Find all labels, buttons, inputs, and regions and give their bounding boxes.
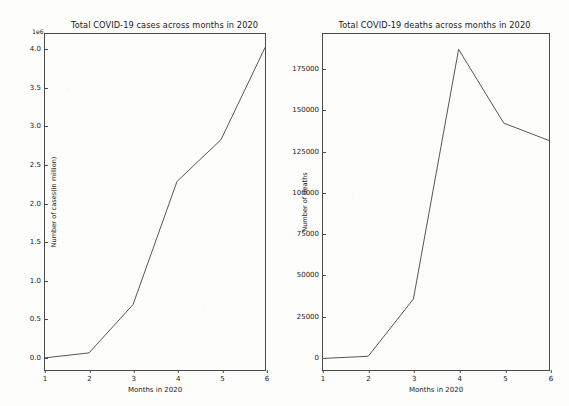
x-tick-cases-3: 3 [132, 370, 136, 383]
y-tick-cases-3: 1.5 [30, 238, 45, 246]
y-tick-deaths-1: 25000 [297, 313, 323, 321]
y-tick-cases-7: 3.5 [30, 84, 45, 92]
series-deaths [323, 34, 549, 370]
x-tick-cases-5: 5 [220, 370, 224, 383]
chart-title-deaths: Total COVID-19 deaths across months in 2… [284, 20, 569, 30]
chart-panel-cases: Total COVID-19 cases across months in 20… [0, 0, 285, 406]
x-tick-cases-4: 4 [176, 370, 180, 383]
x-tick-deaths-6: 6 [549, 370, 553, 383]
x-tick-deaths-1: 1 [321, 370, 325, 383]
x-axis-label-deaths: Months in 2020 [323, 386, 549, 394]
y-tick-cases-2: 1.0 [30, 277, 45, 285]
line-total-cases [45, 48, 265, 358]
y-tick-deaths-0: 0 [315, 354, 323, 362]
x-tick-cases-6: 6 [265, 370, 269, 383]
x-tick-deaths-3: 3 [412, 370, 416, 383]
y-tick-cases-8: 4.0 [30, 45, 45, 53]
y-axis-label-deaths: Number of deaths [301, 172, 309, 232]
x-tick-cases-2: 2 [87, 370, 91, 383]
x-tick-deaths-2: 2 [366, 370, 370, 383]
y-tick-cases-0: 0.0 [30, 354, 45, 362]
y-tick-deaths-6: 150000 [292, 106, 323, 114]
x-tick-deaths-5: 5 [503, 370, 507, 383]
plot-area-deaths: 0 25000 50000 75000 100000 125000 150000… [322, 33, 550, 371]
y-tick-deaths-2: 50000 [297, 271, 323, 279]
x-axis-label-cases: Months in 2020 [45, 386, 265, 394]
y-axis-offset-label-cases: 1e6 [32, 28, 44, 35]
matplotlib-figure: Total COVID-19 cases across months in 20… [0, 0, 569, 406]
y-tick-deaths-5: 125000 [292, 148, 323, 156]
plot-area-cases: 0.0 0.5 1.0 1.5 2.0 2.5 3.0 3.5 4.0 1 2 … [44, 33, 266, 371]
y-tick-deaths-7: 175000 [292, 65, 323, 73]
x-tick-cases-1: 1 [43, 370, 47, 383]
y-tick-cases-5: 2.5 [30, 161, 45, 169]
chart-panel-deaths: Total COVID-19 deaths across months in 2… [284, 0, 569, 406]
chart-title-cases: Total COVID-19 cases across months in 20… [0, 20, 307, 30]
series-cases [45, 34, 265, 370]
y-tick-cases-1: 0.5 [30, 315, 45, 323]
y-tick-cases-6: 3.0 [30, 122, 45, 130]
y-tick-cases-4: 2.0 [30, 200, 45, 208]
x-tick-deaths-4: 4 [458, 370, 462, 383]
line-total-deaths [323, 49, 549, 358]
